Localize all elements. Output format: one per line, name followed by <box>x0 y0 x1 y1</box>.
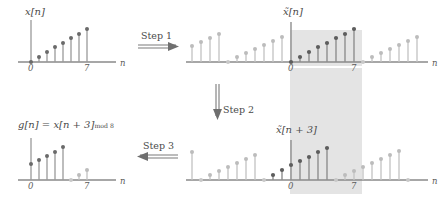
tick-bottom-right-7: 7 <box>351 181 356 191</box>
stems-light-right <box>361 149 410 182</box>
highlight-window-top <box>290 30 362 66</box>
step-3-label: Step 3 <box>143 140 174 151</box>
step-3-arrow <box>137 152 178 161</box>
axis-label-bottom-right: n <box>432 176 437 186</box>
tick-bottom-left-7: 7 <box>84 181 89 191</box>
step-1-label: Step 1 <box>141 30 172 41</box>
label-x-tilde-n-plus-3: x̃[n + 3] <box>276 124 317 135</box>
stems-light-left <box>190 32 284 64</box>
stems-light-left <box>190 150 284 182</box>
tick-bottom-right-0: 0 <box>288 181 293 191</box>
tick-top-right-0: 0 <box>288 63 293 73</box>
panel-bottom-left <box>18 138 116 182</box>
step-2-arrow <box>213 84 222 120</box>
stems <box>29 20 89 64</box>
label-g-n-subscript: mod 8 <box>94 122 113 129</box>
axis-label-top-left: n <box>120 58 125 68</box>
stems-light-right <box>361 35 419 64</box>
step-2-label: Step 2 <box>223 104 254 115</box>
circular-shift-figure <box>0 0 443 206</box>
axis-label-bottom-left: n <box>120 176 125 186</box>
stems <box>29 138 89 182</box>
tick-top-left-0: 0 <box>28 63 33 73</box>
step-1-arrow <box>138 42 179 51</box>
tick-bottom-left-0: 0 <box>28 181 33 191</box>
tick-top-left-7: 7 <box>84 63 89 73</box>
label-g-n: g[n] = x[n + 3]mod 8 <box>18 119 114 130</box>
axis-label-top-right: n <box>432 58 437 68</box>
tick-top-right-7: 7 <box>351 63 356 73</box>
label-x-tilde-n: x̃[n] <box>283 6 303 17</box>
label-x-n: x[n] <box>25 6 45 17</box>
panel-top-left <box>18 20 116 64</box>
